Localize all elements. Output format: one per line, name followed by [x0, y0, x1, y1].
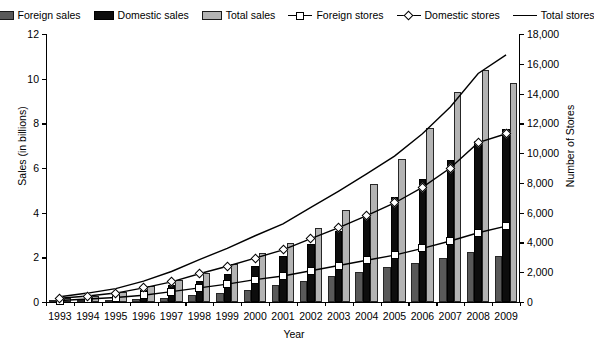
x-axis-tick-label: 1997: [160, 310, 183, 322]
marker-foreign-stores-2005: [391, 251, 399, 259]
x-axis-tick: [213, 302, 214, 306]
x-axis-tick: [241, 302, 242, 306]
y-axis-left-tick-label: 4: [33, 207, 39, 219]
x-axis-tick: [325, 302, 326, 306]
y-axis-left-tick-label: 6: [33, 162, 39, 174]
y-axis-right-tick: [520, 242, 524, 243]
legend-label: Domestic stores: [425, 10, 500, 21]
y-axis-right-tick: [520, 94, 524, 95]
y-axis-right-tick-label: 16,000: [527, 58, 559, 70]
legend-item-domestic-stores: Domestic stores: [397, 10, 500, 21]
legend-label: Foreign stores: [316, 10, 383, 21]
x-axis-tick-label: 2002: [299, 310, 322, 322]
total-sales-swatch-icon: [202, 11, 222, 20]
legend-label: Domestic sales: [118, 10, 189, 21]
y-axis-right-tick-label: 8,000: [527, 177, 553, 189]
domestic-sales-swatch-icon: [94, 11, 114, 20]
y-axis-right-tick: [520, 153, 524, 154]
y-axis-right-tick: [520, 272, 524, 273]
y-axis-left-tick-label: 8: [33, 117, 39, 129]
y-axis-left-tick-label: 2: [33, 251, 39, 263]
x-axis-tick-label: 2001: [271, 310, 294, 322]
x-axis-tick-label: 2009: [494, 310, 517, 322]
marker-foreign-stores-2009: [502, 222, 510, 230]
x-axis-tick: [464, 302, 465, 306]
x-axis-tick: [436, 302, 437, 306]
line-foreign-stores: [60, 226, 506, 300]
legend-label: Total sales: [226, 10, 276, 21]
y-axis-right-tick-label: 18,000: [527, 28, 559, 40]
chart-legend: Foreign salesDomestic salesTotal salesFo…: [0, 6, 588, 24]
marker-foreign-stores-2007: [446, 237, 454, 245]
marker-foreign-stores-1996: [140, 291, 148, 299]
x-axis-tick: [269, 302, 270, 306]
total-stores-line-icon: [513, 11, 537, 20]
y-axis-right-title: Number of Stores: [564, 76, 576, 216]
x-axis-tick-label: 2006: [411, 310, 434, 322]
y-axis-right-tick-label: 10,000: [527, 147, 559, 159]
x-axis-tick: [158, 302, 159, 306]
plot-area: 024681012 02,0004,0006,0008,00010,00012,…: [46, 34, 520, 302]
x-axis-tick-label: 2008: [466, 310, 489, 322]
y-axis-right-tick: [520, 213, 524, 214]
marker-foreign-stores-2003: [335, 262, 343, 270]
foreign-sales-swatch-icon: [0, 11, 14, 20]
marker-foreign-stores-2008: [474, 229, 482, 237]
x-axis-tick: [353, 302, 354, 306]
marker-foreign-stores-2002: [307, 267, 315, 275]
legend-item-total-stores: Total stores: [513, 10, 594, 21]
x-axis-tick-label: 2005: [383, 310, 406, 322]
legend-label: Total stores: [541, 10, 594, 21]
marker-foreign-stores-2004: [363, 256, 371, 264]
x-axis-tick: [130, 302, 131, 306]
y-axis-right-tick: [520, 64, 524, 65]
y-axis-right-tick-label: 4,000: [527, 236, 553, 248]
x-axis-tick: [102, 302, 103, 306]
x-axis-tick: [381, 302, 382, 306]
y-axis-left-tick-label: 0: [33, 296, 39, 308]
x-axis-tick-label: 1995: [104, 310, 127, 322]
foreign-stores-line-icon: [288, 11, 312, 20]
marker-foreign-stores-2001: [279, 272, 287, 280]
x-axis-tick-label: 1998: [188, 310, 211, 322]
marker-foreign-stores-1999: [223, 280, 231, 288]
x-axis-tick-label: 1993: [48, 310, 71, 322]
x-axis-tick-label: 2000: [243, 310, 266, 322]
y-axis-right-tick: [520, 34, 524, 35]
legend-item-foreign-sales: Foreign sales: [0, 10, 81, 21]
y-axis-right-tick-label: 6,000: [527, 207, 553, 219]
x-axis-line: [46, 302, 520, 303]
x-axis-title: Year: [0, 328, 588, 340]
legend-item-domestic-sales: Domestic sales: [94, 10, 189, 21]
legend-item-foreign-stores: Foreign stores: [288, 10, 383, 21]
x-axis-tick: [74, 302, 75, 306]
x-axis-tick-label: 1996: [132, 310, 155, 322]
x-axis-tick: [492, 302, 493, 306]
y-axis-right-tick-label: 12,000: [527, 117, 559, 129]
x-axis-tick: [46, 302, 47, 306]
y-axis-right-tick-label: 0: [527, 296, 533, 308]
y-axis-right-tick: [520, 123, 524, 124]
y-axis-left-title: Sales (in billions): [16, 76, 28, 216]
x-axis-tick-label: 2004: [355, 310, 378, 322]
marker-foreign-stores-1997: [167, 288, 175, 296]
x-axis-tick-label: 2003: [327, 310, 350, 322]
x-axis-tick-label: 2007: [439, 310, 462, 322]
legend-item-total-sales: Total sales: [202, 10, 276, 21]
marker-foreign-stores-2000: [251, 276, 259, 284]
y-axis-right-tick: [520, 183, 524, 184]
x-axis-tick: [297, 302, 298, 306]
y-axis-right-tick-label: 14,000: [527, 88, 559, 100]
y-axis-right-tick-label: 2,000: [527, 266, 553, 278]
marker-foreign-stores-1998: [195, 284, 203, 292]
marker-foreign-stores-2006: [418, 244, 426, 252]
x-axis-tick-label: 1994: [76, 310, 99, 322]
y-axis-left-tick-label: 10: [27, 73, 39, 85]
legend-label: Foreign sales: [18, 10, 81, 21]
x-axis-tick: [520, 302, 521, 306]
x-axis-tick-label: 1999: [216, 310, 239, 322]
domestic-stores-line-icon: [397, 11, 421, 20]
x-axis-tick: [408, 302, 409, 306]
y-axis-left-tick-label: 12: [27, 28, 39, 40]
